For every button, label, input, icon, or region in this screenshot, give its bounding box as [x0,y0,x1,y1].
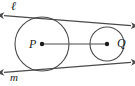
label-line-l: ℓ [11,0,16,12]
tangent-circles-diagram [0,0,135,86]
label-line-m: m [10,72,18,83]
label-point-p: P [29,38,36,50]
center-dot-q [105,42,109,46]
label-point-q: Q [117,37,126,49]
center-dot-p [40,42,44,46]
geometry-figure: ℓ m P Q [0,0,135,86]
